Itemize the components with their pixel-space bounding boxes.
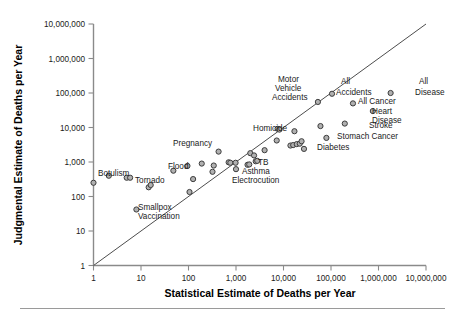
y-tick-label: 10	[76, 227, 86, 236]
data-point	[342, 121, 347, 126]
data-label: Disease	[415, 88, 445, 97]
data-point	[210, 169, 215, 174]
x-tick-label: 1	[91, 274, 96, 283]
data-label: Vehicle	[275, 84, 302, 93]
x-tick-label: 10	[136, 274, 146, 283]
data-label: Electrocution	[232, 176, 280, 185]
x-tick-label: 100,000	[316, 274, 346, 283]
scatter-plot: 1101001,00010,000100,0001,000,00010,000,…	[0, 0, 465, 321]
data-point	[315, 99, 320, 104]
data-point	[233, 167, 238, 172]
data-label: Tornado	[135, 176, 165, 185]
data-label: Accidents	[272, 93, 308, 102]
y-tick-label: 10,000	[60, 124, 85, 133]
data-label: TB	[258, 158, 269, 167]
data-point	[216, 149, 221, 154]
x-tick-label: 1,000,000	[360, 274, 397, 283]
data-label: Stomach Cancer	[337, 132, 398, 141]
x-tick-label: 10,000,000	[406, 274, 447, 283]
y-tick-label: 100,000	[55, 89, 85, 98]
y-axis-title: Judgmental Estimate of Deaths per Year	[12, 45, 24, 246]
data-label: All	[419, 77, 428, 86]
data-point	[91, 180, 96, 185]
data-label: Homicide	[253, 124, 288, 133]
data-label: Disease	[372, 116, 402, 125]
data-label: Vaccination	[138, 212, 180, 221]
data-point	[350, 101, 355, 106]
identity-reference-line	[94, 24, 427, 266]
data-label: Diabetes	[317, 143, 349, 152]
x-tick-label: 10,000	[271, 274, 296, 283]
data-point-labels: BotulismTornadoSmallpoxVaccinationFloodP…	[98, 75, 445, 221]
data-point	[233, 160, 238, 165]
data-point	[318, 123, 323, 128]
plot-axes: 1101001,00010,000100,0001,000,00010,000,…	[44, 20, 447, 283]
data-point	[211, 163, 216, 168]
data-label: All	[341, 77, 350, 86]
y-axis-tick-labels: 1101001,00010,000100,0001,000,00010,000,…	[44, 20, 85, 271]
data-point	[299, 139, 304, 144]
data-point	[199, 161, 204, 166]
data-label: Flood	[168, 162, 189, 171]
data-point	[292, 129, 297, 134]
x-axis-tick-labels: 1101001,00010,000100,0001,000,00010,000,…	[91, 274, 447, 283]
data-label: Motor	[278, 75, 299, 84]
data-label: Asthma	[242, 167, 270, 176]
data-point	[274, 138, 279, 143]
data-point	[388, 90, 393, 95]
data-point	[228, 160, 233, 165]
data-point	[187, 189, 192, 194]
y-tick-label: 1,000	[65, 158, 86, 167]
y-axis-ticks	[89, 24, 94, 266]
figure-container: 1101001,00010,000100,0001,000,00010,000,…	[0, 0, 465, 321]
data-label: Smallpox	[138, 203, 172, 212]
x-tick-label: 1,000	[226, 274, 247, 283]
x-axis-title: Statistical Estimate of Deaths per Year	[164, 287, 355, 299]
y-tick-label: 1,000,000	[49, 55, 86, 64]
data-point	[191, 176, 196, 181]
y-tick-label: 100	[71, 193, 85, 202]
data-point	[329, 91, 334, 96]
y-tick-label: 10,000,000	[44, 20, 85, 29]
data-point	[301, 146, 306, 151]
data-label: Heart	[372, 107, 393, 116]
y-tick-label: 1	[80, 262, 85, 271]
data-label: All Cancer	[358, 97, 396, 106]
data-point	[262, 148, 267, 153]
data-label: Pregnancy	[173, 139, 213, 148]
x-tick-label: 100	[182, 274, 196, 283]
data-point	[251, 153, 256, 158]
data-label: Botulism	[98, 169, 130, 178]
data-point	[324, 135, 329, 140]
x-axis-ticks	[94, 266, 427, 271]
data-label: Accidents	[336, 88, 372, 97]
